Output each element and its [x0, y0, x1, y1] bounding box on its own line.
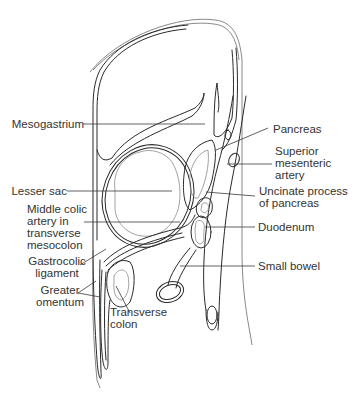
label-duodenum: Duodenum [258, 221, 314, 233]
label-small-bowel: Small bowel [258, 260, 320, 272]
label-lesser-sac: Lesser sac [8, 185, 67, 197]
posterior-loop [206, 306, 218, 330]
label-middle-colic-artery: Middle colic artery in transverse mesoco… [27, 203, 87, 251]
lesser-sac-organ [88, 132, 208, 261]
greater-omentum [101, 270, 110, 370]
small-bowel-organ [153, 248, 196, 306]
transverse-colon-organ [107, 260, 134, 306]
label-greater-omentum: Greater omentum [36, 284, 84, 308]
label-mesogastrium: Mesogastrium [8, 118, 84, 130]
label-superior-mesenteric-artery: Superior mesenteric artery [275, 145, 331, 181]
label-transverse-colon: Transverse colon [110, 306, 167, 330]
label-gastrocolic-ligament: Gastrocolic ligament [28, 255, 86, 279]
duodenum-organ [191, 216, 211, 248]
label-pancreas: Pancreas [273, 123, 322, 135]
mesogastrium-fold [97, 93, 204, 165]
vessel [225, 130, 241, 168]
label-uncinate-process: Uncinate process of pancreas [259, 185, 348, 209]
